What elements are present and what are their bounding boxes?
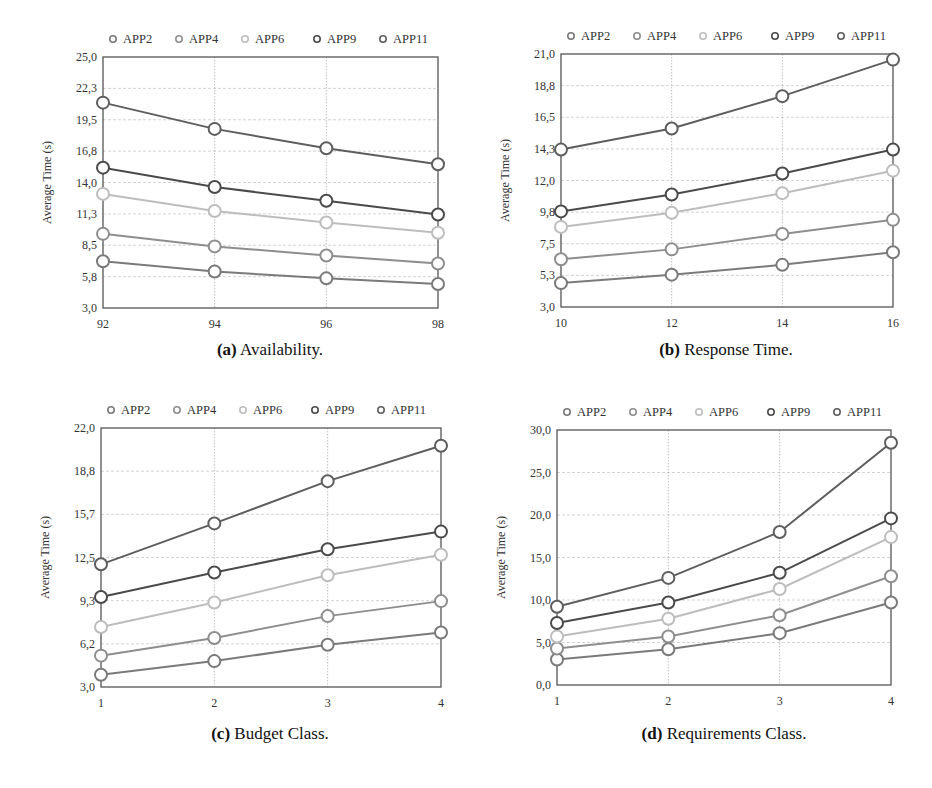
y-tick-label: 22,0 [74,421,95,435]
data-point-marker [97,255,109,267]
y-tick-label: 14,3 [534,142,555,156]
data-point-marker [432,227,444,239]
legend-marker-icon [564,409,570,415]
series-app9 [95,526,447,603]
data-point-marker [95,621,107,633]
data-point-marker [885,437,897,449]
x-tick-label: 92 [97,317,109,331]
y-axis-label: Average Time (s) [494,516,508,599]
legend: APP2APP4APP6APP9APP11 [564,405,882,419]
series-app11 [551,437,897,613]
legend-label: APP11 [393,32,428,46]
legend-marker-icon [174,407,180,413]
chart-b: 3,05,37,59,812,014,316,518,821,010121416… [498,29,899,330]
y-tick-label: 15,0 [530,551,551,565]
data-point-marker [551,642,563,654]
legend-marker-icon [378,407,384,413]
legend-marker-icon [312,407,318,413]
data-point-marker [97,188,109,200]
data-point-marker [887,54,899,66]
data-point-marker [208,566,220,578]
series-app11 [97,97,444,171]
series-app2 [551,597,897,666]
caption-a: (a) Availability. [120,340,420,360]
y-tick-label: 16,8 [76,144,97,158]
y-tick-label: 30,0 [530,423,551,437]
series-line [557,443,891,607]
legend-label: APP6 [713,29,742,43]
series-line [561,252,893,283]
data-point-marker [322,543,334,555]
y-tick-label: 15,7 [74,507,95,521]
x-tick-label: 14 [776,316,788,330]
data-point-marker [776,167,788,179]
y-tick-label: 12,5 [74,551,95,565]
series-app4 [95,595,447,662]
caption-d-text: Requirements Class. [667,724,807,743]
legend-label: APP9 [327,32,356,46]
data-point-marker [774,567,786,579]
data-point-marker [666,207,678,219]
x-tick-label: 4 [888,694,894,708]
legend-label: APP6 [253,403,282,417]
figure-canvas: 3,05,88,511,314,016,819,522,325,09294969… [0,0,932,788]
data-point-marker [320,250,332,262]
y-tick-label: 19,5 [76,113,97,127]
data-point-marker [320,195,332,207]
series-line [103,194,438,233]
x-tick-label: 2 [211,696,217,710]
legend-label: APP4 [187,403,217,417]
x-tick-label: 1 [98,696,104,710]
series-line [103,168,438,215]
y-tick-label: 25,0 [530,466,551,480]
data-point-marker [555,277,567,289]
data-point-marker [322,639,334,651]
data-point-marker [435,626,447,638]
x-tick-label: 4 [438,696,444,710]
legend-label: APP11 [851,29,886,43]
series-app11 [95,440,447,571]
data-point-marker [435,440,447,452]
legend-marker-icon [176,36,182,42]
data-point-marker [666,122,678,134]
data-point-marker [208,655,220,667]
data-point-marker [887,144,899,156]
y-tick-label: 5,0 [536,636,551,650]
y-tick-label: 3,0 [82,301,97,315]
legend-marker-icon [240,407,246,413]
data-point-marker [432,158,444,170]
chart-a: 3,05,88,511,314,016,819,522,325,09294969… [40,32,444,331]
data-point-marker [774,627,786,639]
data-point-marker [97,228,109,240]
legend-marker-icon [696,409,702,415]
x-tick-label: 16 [887,316,899,330]
caption-d: (d) Requirements Class. [574,724,874,744]
legend-label: APP4 [647,29,677,43]
legend-marker-icon [380,36,386,42]
legend-label: APP2 [121,403,150,417]
caption-b-text: Response Time. [684,340,793,359]
caption-b: (b) Response Time. [576,340,876,360]
data-point-marker [95,591,107,603]
series-app11 [555,54,899,156]
data-point-marker [95,669,107,681]
legend-label: APP11 [847,405,882,419]
chart-c: 3,06,29,312,515,718,822,01234Average Tim… [38,403,447,710]
data-point-marker [662,597,674,609]
legend-marker-icon [242,36,248,42]
data-point-marker [776,228,788,240]
series-app2 [555,246,899,289]
legend-label: APP2 [581,29,610,43]
x-tick-label: 1 [554,694,560,708]
y-tick-label: 5,8 [82,270,97,284]
series-line [103,261,438,284]
data-point-marker [555,205,567,217]
y-tick-label: 11,3 [76,207,97,221]
x-tick-label: 10 [555,316,567,330]
legend-marker-icon [772,33,778,39]
y-tick-label: 3,0 [540,300,555,314]
legend-marker-icon [700,33,706,39]
x-tick-label: 2 [665,694,671,708]
series-app9 [551,512,897,629]
legend: APP2APP4APP6APP9APP11 [568,29,886,43]
